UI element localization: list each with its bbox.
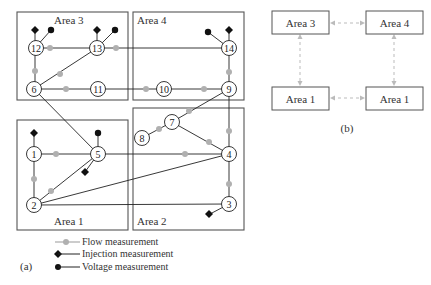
svg-text:5: 5 [96,149,101,160]
svg-text:12: 12 [31,43,41,54]
edges [34,30,229,214]
legend: Flow measurement Injection measurement V… [54,236,174,272]
diagram-canvas: 12 13 14 6 11 10 9 7 8 4 3 1 5 2 Area 3 … [0,0,431,285]
area-connectivity-diagram: Area 3 Area 4 Area 1 Area 1 (b) [272,11,423,135]
bus-node-14: 14 [222,41,237,56]
legend-injection-label: Injection measurement [82,248,174,259]
legend-voltage-label: Voltage measurement [82,261,168,272]
legend-flow-label: Flow measurement [82,236,159,247]
svg-text:9: 9 [227,84,232,95]
svg-text:2: 2 [32,200,37,211]
bus-node-7: 7 [165,115,180,130]
b-area1-right-label: Area 1 [380,93,410,105]
area4-label: Area 4 [137,14,167,26]
svg-text:11: 11 [93,84,103,95]
svg-text:7: 7 [170,117,175,128]
svg-text:14: 14 [224,43,234,54]
area1-label: Area 1 [54,215,84,227]
bus-nodes: 12 13 14 6 11 10 9 7 8 4 3 1 5 2 [27,41,237,213]
bus-node-10: 10 [157,82,172,97]
bus-node-5: 5 [91,147,106,162]
injection-measurements [30,26,233,218]
svg-text:1: 1 [32,149,37,160]
svg-text:6: 6 [32,84,37,95]
caption-a: (a) [20,260,33,273]
svg-text:3: 3 [227,199,232,210]
flow-legend-icon [63,239,69,245]
area2-label: Area 2 [137,215,167,227]
svg-text:13: 13 [92,43,102,54]
b-area4-label: Area 4 [380,17,410,29]
svg-text:8: 8 [140,133,145,144]
b-area3-label: Area 3 [286,17,316,29]
area3-label: Area 3 [54,14,84,26]
bus-node-8: 8 [135,131,150,146]
bus-node-4: 4 [222,147,237,162]
bus-node-13: 13 [90,41,105,56]
bus-node-11: 11 [91,82,106,97]
bus-node-2: 2 [27,198,42,213]
caption-b: (b) [341,122,354,135]
bus-node-12: 12 [29,41,44,56]
svg-text:10: 10 [159,84,169,95]
b-area1-left-label: Area 1 [286,93,316,105]
bus-node-3: 3 [222,197,237,212]
svg-text:4: 4 [227,149,232,160]
bus-node-6: 6 [27,82,42,97]
bus-node-9: 9 [222,82,237,97]
bus-node-1: 1 [27,147,42,162]
